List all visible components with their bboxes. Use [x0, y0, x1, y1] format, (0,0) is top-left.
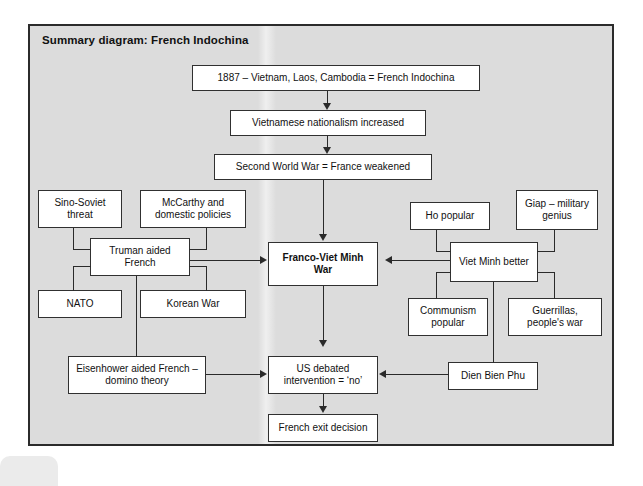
- edge-giap-vietminh-horizontal: [537, 251, 555, 252]
- edge-communism-vietminh-vertical: [436, 272, 437, 299]
- node-giap-label: Giap – military genius: [521, 198, 593, 223]
- edge-communism-vietminh-horizontal: [436, 272, 451, 273]
- edge-nato-truman-horizontal: [73, 266, 91, 267]
- edge-ho-vietminh-vertical: [436, 230, 437, 252]
- edge-truman-war-arrowhead: [260, 256, 267, 264]
- node-viet-minh-better-label: Viet Minh better: [459, 256, 529, 269]
- node-nationalism-label: Vietnamese nationalism increased: [252, 117, 404, 130]
- edge-sino-truman-horizontal: [73, 249, 91, 250]
- node-ho-popular[interactable]: Ho popular: [410, 202, 490, 230]
- edge-mccarthy-truman-horizontal: [189, 249, 207, 250]
- edge-wwii-war-arrowhead: [319, 234, 327, 241]
- edge-dienbienphu-usdebated-arrowhead: [379, 370, 386, 378]
- edge-guerrillas-vietminh-horizontal: [537, 272, 555, 273]
- node-us-debated-label: US debated intervention = ‘no’: [273, 363, 373, 388]
- edge-eisenhower-usdebated: [206, 374, 261, 375]
- edge-nato-truman-vertical: [73, 266, 74, 291]
- edge-truman-eisenhower: [136, 276, 137, 357]
- node-mccarthy-label: McCarthy and domestic policies: [145, 197, 241, 222]
- node-mccarthy[interactable]: McCarthy and domestic policies: [140, 190, 246, 228]
- edge-wwii-war: [323, 180, 324, 235]
- node-us-debated[interactable]: US debated intervention = ‘no’: [268, 356, 378, 394]
- edge-eisenhower-usdebated-arrowhead: [260, 370, 267, 378]
- edge-mccarthy-truman-vertical: [206, 228, 207, 250]
- node-korean-war[interactable]: Korean War: [140, 290, 246, 318]
- node-communism-popular[interactable]: Communism popular: [408, 298, 488, 336]
- node-indochina[interactable]: 1887 – Vietnam, Laos, Cambodia = French …: [192, 65, 480, 91]
- node-franco-viet-minh-war-label: Franco-Viet Minh War: [273, 252, 373, 277]
- edge-war-usdebated: [323, 286, 324, 341]
- node-giap[interactable]: Giap – military genius: [516, 190, 598, 230]
- node-eisenhower[interactable]: Eisenhower aided French – domino theory: [68, 356, 206, 394]
- node-french-exit-decision[interactable]: French exit decision: [268, 414, 378, 442]
- edge-giap-vietminh-vertical: [554, 230, 555, 252]
- edge-ho-vietminh-horizontal: [436, 251, 451, 252]
- node-wwii[interactable]: Second World War = France weakened: [214, 154, 432, 180]
- scan-artifact: [0, 456, 58, 486]
- edge-korea-truman-horizontal: [189, 266, 207, 267]
- node-nationalism[interactable]: Vietnamese nationalism increased: [230, 110, 426, 136]
- node-sino-soviet-label: Sino-Soviet threat: [43, 197, 117, 222]
- edge-guerrillas-vietminh-vertical: [554, 272, 555, 299]
- node-franco-viet-minh-war[interactable]: Franco-Viet Minh War: [268, 242, 378, 286]
- edge-korea-truman-vertical: [206, 266, 207, 291]
- edge-sino-truman-vertical: [73, 228, 74, 250]
- edge-dienbienphu-usdebated: [386, 374, 449, 375]
- node-communism-popular-label: Communism popular: [413, 305, 483, 330]
- node-french-exit-decision-label: French exit decision: [279, 422, 368, 435]
- edge-indochina-nationalism-arrowhead: [323, 103, 331, 110]
- node-korean-war-label: Korean War: [167, 298, 220, 311]
- node-ho-popular-label: Ho popular: [426, 210, 475, 223]
- node-guerrillas-label: Guerrillas, people's war: [513, 305, 597, 330]
- edge-war-usdebated-arrowhead: [319, 340, 327, 347]
- node-indochina-label: 1887 – Vietnam, Laos, Cambodia = French …: [218, 72, 455, 85]
- node-truman[interactable]: Truman aided French: [90, 238, 190, 276]
- edge-nationalism-wwii-arrowhead: [323, 147, 331, 154]
- node-truman-label: Truman aided French: [95, 245, 185, 270]
- node-sino-soviet[interactable]: Sino-Soviet threat: [38, 190, 122, 228]
- node-nato[interactable]: NATO: [38, 290, 122, 318]
- node-eisenhower-label: Eisenhower aided French – domino theory: [73, 363, 201, 388]
- edge-truman-war: [190, 260, 261, 261]
- node-nato-label: NATO: [67, 298, 94, 311]
- edge-usdebated-frenchexit-arrowhead: [319, 406, 327, 413]
- node-dien-bien-phu-label: Dien Bien Phu: [461, 370, 525, 383]
- node-wwii-label: Second World War = France weakened: [236, 161, 410, 174]
- node-dien-bien-phu[interactable]: Dien Bien Phu: [448, 362, 538, 390]
- page-title: Summary diagram: French Indochina: [42, 34, 249, 46]
- edge-vietminh-dienbienphu: [493, 282, 494, 363]
- node-viet-minh-better[interactable]: Viet Minh better: [450, 242, 538, 282]
- edge-vietminh-war: [392, 260, 450, 261]
- diagram-panel: Summary diagram: French Indochina 1887 –…: [28, 24, 614, 446]
- edge-vietminh-war-arrowhead: [385, 256, 392, 264]
- node-guerrillas[interactable]: Guerrillas, people's war: [508, 298, 602, 336]
